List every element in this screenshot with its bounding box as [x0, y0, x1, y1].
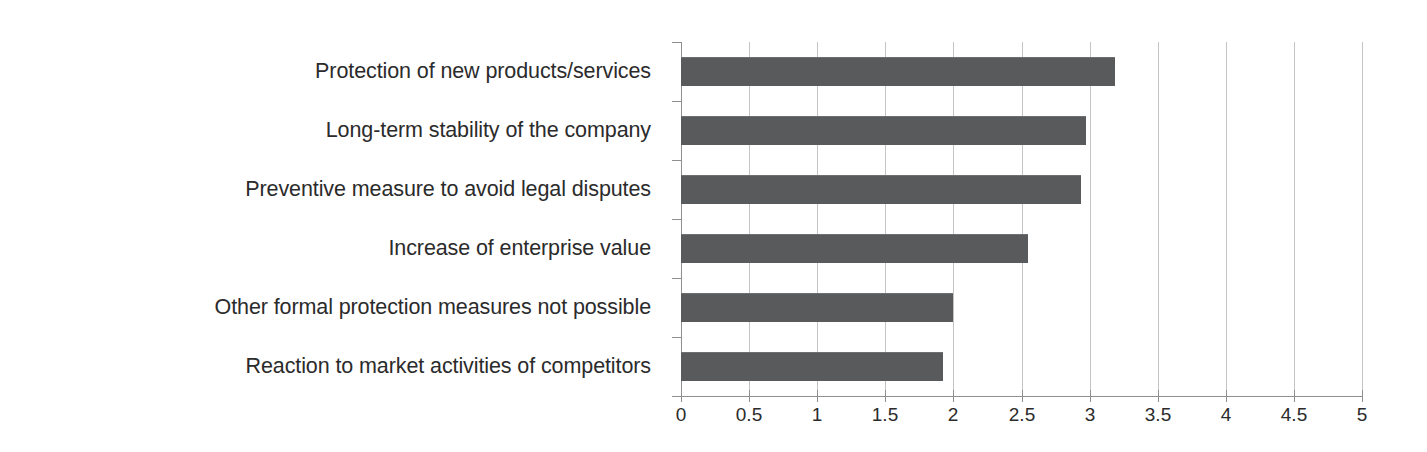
- plot-area: [681, 42, 1362, 396]
- category-label: Other formal protection measures not pos…: [215, 296, 651, 320]
- category-label-row: Long-term stability of the company: [0, 101, 665, 160]
- x-axis-tick-label: 2: [948, 404, 959, 426]
- x-axis-tick-label: 1.5: [872, 404, 898, 426]
- category-label-row: Protection of new products/services: [0, 42, 665, 101]
- bar: [681, 175, 1081, 204]
- category-label-row: Other formal protection measures not pos…: [0, 278, 665, 337]
- category-tick: [672, 42, 681, 43]
- x-axis-tick-label: 3.5: [1145, 404, 1171, 426]
- x-axis-tick: [885, 390, 886, 402]
- x-axis-tick: [953, 390, 954, 402]
- x-axis-tick-label: 5: [1357, 404, 1368, 426]
- x-axis-tick-label: 4.5: [1281, 404, 1307, 426]
- bar-row: [681, 337, 1362, 396]
- x-axis-tick: [681, 390, 682, 402]
- category-label: Increase of enterprise value: [388, 237, 651, 261]
- category-label-row: Preventive measure to avoid legal disput…: [0, 160, 665, 219]
- x-axis-tick-labels: 00.511.522.533.544.55: [681, 404, 1362, 434]
- gridline: [1362, 42, 1363, 396]
- x-axis-tick: [817, 390, 818, 402]
- x-axis-tick-label: 0: [676, 404, 687, 426]
- x-axis-tick-label: 2.5: [1009, 404, 1035, 426]
- bar-row: [681, 219, 1362, 278]
- bar-row: [681, 42, 1362, 101]
- category-label-row: Reaction to market activities of competi…: [0, 337, 665, 396]
- x-axis-tick: [749, 390, 750, 402]
- bar: [681, 293, 953, 322]
- category-label: Reaction to market activities of competi…: [246, 355, 651, 379]
- x-axis-tick: [1226, 390, 1227, 402]
- bar-row: [681, 160, 1362, 219]
- x-axis-tick-label: 4: [1221, 404, 1232, 426]
- bar-row: [681, 101, 1362, 160]
- category-label-row: Increase of enterprise value: [0, 219, 665, 278]
- category-tick: [672, 160, 681, 161]
- category-label: Long-term stability of the company: [326, 119, 651, 143]
- category-label: Protection of new products/services: [315, 60, 651, 84]
- x-axis-tick: [1158, 390, 1159, 402]
- x-axis-ticks: [681, 390, 1362, 402]
- bar: [681, 116, 1086, 145]
- bar: [681, 234, 1028, 263]
- x-axis-tick: [1022, 390, 1023, 402]
- bar-series: [681, 42, 1362, 396]
- x-axis-tick-label: 0.5: [736, 404, 762, 426]
- category-tick: [672, 278, 681, 279]
- x-axis-tick: [1362, 390, 1363, 402]
- x-axis-tick: [1294, 390, 1295, 402]
- category-axis-labels: Protection of new products/services Long…: [0, 42, 665, 396]
- x-axis-tick-label: 3: [1085, 404, 1096, 426]
- bar: [681, 352, 943, 381]
- bar: [681, 57, 1115, 86]
- horizontal-bar-chart: Protection of new products/services Long…: [0, 0, 1427, 452]
- category-label: Preventive measure to avoid legal disput…: [245, 178, 651, 202]
- category-tick: [672, 337, 681, 338]
- x-axis-tick: [1090, 390, 1091, 402]
- category-tick: [672, 396, 681, 397]
- category-tick: [672, 219, 681, 220]
- category-tick: [672, 101, 681, 102]
- x-axis-tick-label: 1: [812, 404, 823, 426]
- bar-row: [681, 278, 1362, 337]
